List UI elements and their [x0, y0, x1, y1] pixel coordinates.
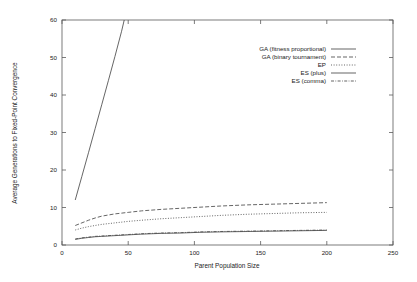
legend-label: ES (comma): [292, 77, 326, 84]
chart-figure: 050100150200250 0102030405060 GA (fitnes…: [0, 0, 417, 282]
y-tick-label: 30: [50, 129, 57, 136]
y-tick-label: 60: [50, 16, 57, 23]
series-line: [75, 203, 327, 226]
series-line: [75, 230, 327, 239]
x-tick-label: 200: [322, 249, 333, 256]
y-axis-title: Average Generations to Fixed-Point Conve…: [11, 62, 19, 204]
legend-label: GA (fitness proportional): [259, 45, 326, 52]
plot-frame: [62, 20, 393, 245]
x-tick-label: 50: [125, 249, 132, 256]
y-tick-label: 40: [50, 91, 57, 98]
x-axis-title: Parent Population Size: [194, 262, 259, 270]
x-tick-label: 250: [388, 249, 399, 256]
line-chart: 050100150200250 0102030405060 GA (fitnes…: [0, 0, 417, 282]
chart-legend: GA (fitness proportional)GA (binary tour…: [259, 45, 356, 84]
series-line: [75, 20, 124, 200]
y-tick-label: 50: [50, 54, 57, 61]
x-tick-label: 150: [255, 249, 266, 256]
legend-label: GA (binary tournament): [262, 53, 326, 60]
x-tick-label: 100: [189, 249, 200, 256]
y-axis-ticks: 0102030405060: [50, 16, 393, 248]
y-tick-label: 10: [50, 204, 57, 211]
legend-label: EP: [318, 61, 326, 68]
x-tick-label: 0: [60, 249, 64, 256]
legend-label: ES (plus): [301, 69, 326, 76]
y-tick-label: 0: [54, 241, 58, 248]
x-axis-ticks: 050100150200250: [60, 20, 398, 256]
y-tick-label: 20: [50, 166, 57, 173]
series-line: [75, 212, 327, 230]
